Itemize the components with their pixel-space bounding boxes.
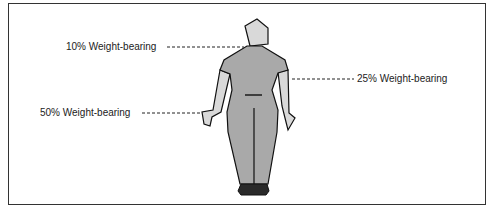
head-shape [245, 19, 268, 46]
left-arm-shape [202, 70, 230, 126]
arm-weight-label: 25% Weight-bearing [357, 73, 447, 85]
head-weight-label: 10% Weight-bearing [66, 41, 156, 53]
hand-weight-label: 50% Weight-bearing [40, 107, 130, 119]
feet-shape [238, 184, 269, 195]
human-figure-illustration [0, 0, 492, 211]
